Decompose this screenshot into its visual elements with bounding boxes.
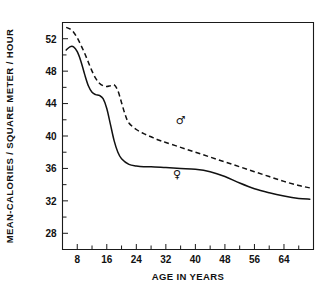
series-line-female <box>66 46 310 199</box>
x-axis-tick-labels: 816243240485664 <box>74 254 289 265</box>
axes-frame <box>63 23 314 250</box>
x-tick-label: 40 <box>190 254 202 265</box>
y-axis-tick-labels: 28323640444852 <box>45 34 57 240</box>
y-tick-label: 48 <box>45 66 57 77</box>
series-symbol-female: ♀ <box>173 168 181 181</box>
x-axis-title: AGE IN YEARS <box>152 271 225 282</box>
x-tick-label: 24 <box>131 254 143 265</box>
series-line-male <box>66 27 310 188</box>
y-tick-label: 52 <box>45 34 57 45</box>
y-tick-label: 28 <box>45 228 57 239</box>
x-tick-label: 64 <box>278 254 290 265</box>
x-tick-label: 48 <box>219 254 231 265</box>
y-axis-major-ticks <box>63 39 69 234</box>
y-tick-label: 44 <box>45 98 57 109</box>
series-symbol-male: ♂ <box>176 114 186 127</box>
y-tick-label: 36 <box>45 163 57 174</box>
y-tick-label: 32 <box>45 196 57 207</box>
y-tick-label: 40 <box>45 131 57 142</box>
x-axis-minor-ticks <box>92 246 313 250</box>
x-tick-label: 8 <box>74 254 80 265</box>
figure-container: 816243240485664 28323640444852 ♂ ♀ AGE I… <box>0 0 324 291</box>
x-tick-label: 16 <box>101 254 113 265</box>
x-tick-label: 56 <box>249 254 261 265</box>
y-axis-title: MEAN-CALORIES / SQUARE METER / HOUR <box>4 29 15 244</box>
series-group <box>66 27 310 199</box>
chart-canvas: 816243240485664 28323640444852 ♂ ♀ AGE I… <box>0 0 324 291</box>
plot-frame <box>63 23 314 250</box>
x-tick-label: 32 <box>160 254 172 265</box>
